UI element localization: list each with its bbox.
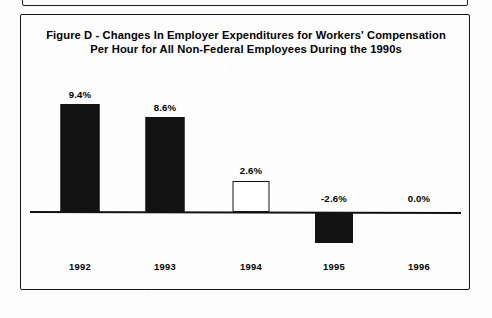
category-label-1996: 1996 (408, 261, 430, 272)
bar-1995[interactable] (315, 212, 353, 243)
figure-frame: Figure D - Changes In Employer Expenditu… (20, 14, 470, 290)
bar-value-label-1995: -2.6% (321, 193, 347, 204)
bar-value-label-1994: 2.6% (240, 165, 263, 176)
bar-1994[interactable] (233, 181, 270, 212)
bar-1993[interactable] (146, 117, 185, 212)
category-label-1994: 1994 (240, 261, 262, 272)
bar-group-1992: 9.4% 1992 (37, 15, 123, 289)
category-label-1995: 1995 (323, 261, 345, 272)
plot-area: 9.4% 1992 8.6% 1993 2.6% 1994 -2.6% 1995… (21, 15, 469, 289)
bar-group-1993: 8.6% 1993 (122, 15, 208, 289)
bar-value-label-1996: 0.0% (408, 193, 431, 204)
bar-value-label-1993: 8.6% (154, 102, 177, 113)
bar-value-label-1992: 9.4% (69, 89, 92, 100)
category-label-1993: 1993 (154, 261, 176, 272)
clipped-box-above-figure (22, 0, 468, 6)
category-label-1992: 1992 (69, 261, 91, 272)
bar-group-1996: 0.0% 1996 (376, 15, 462, 289)
bar-group-1995: -2.6% 1995 (291, 15, 377, 289)
bar-group-1994: 2.6% 1994 (208, 15, 294, 289)
bar-1992[interactable] (61, 104, 100, 212)
